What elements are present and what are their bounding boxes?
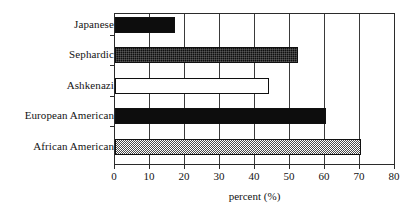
category-label-japanese: Japanese [74,19,114,30]
bar-sephardic [115,47,298,63]
y-axis-tick-3 [110,96,114,97]
category-label-european-american: European American [25,110,114,121]
x-axis-label-50: 50 [277,170,301,182]
bar-african-american [115,139,361,155]
y-axis-tick-4 [110,126,114,127]
x-axis-label-70: 70 [347,170,371,182]
x-axis-tick-60 [324,165,325,169]
x-axis-title: percent (%) [114,190,395,202]
bar-japanese [115,17,175,33]
x-axis-tick-70 [359,165,360,169]
bar-ashkenazi [115,78,269,94]
category-label-african-american: African American [33,141,114,152]
y-axis-tick-2 [110,65,114,66]
x-axis-label-10: 10 [137,170,161,182]
plot-area [114,13,395,165]
x-axis-label-80: 80 [382,170,406,182]
x-axis-label-60: 60 [312,170,336,182]
category-label-sephardic: Sephardic [69,49,114,60]
y-axis-tick-1 [110,35,114,36]
x-axis-label-30: 30 [207,170,231,182]
x-axis-label-0: 0 [102,170,126,182]
x-axis-tick-0 [114,165,115,169]
x-axis-tick-80 [394,165,395,169]
x-axis-tick-10 [149,165,150,169]
x-axis-label-40: 40 [242,170,266,182]
x-axis-tick-50 [289,165,290,169]
bar-european-american [115,108,326,124]
x-axis-tick-40 [254,165,255,169]
category-label-ashkenazi: Ashkenazi [67,80,114,91]
bar-chart: Japanese Sephardic Ashkenazi European Am… [0,0,414,216]
x-axis-tick-20 [184,165,185,169]
x-axis-label-20: 20 [172,170,196,182]
x-axis-tick-30 [219,165,220,169]
